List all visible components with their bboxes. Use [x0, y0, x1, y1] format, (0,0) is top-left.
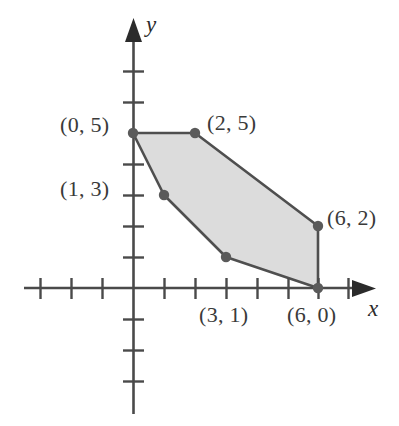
coordinate-plane-figure: (0, 5) (2, 5) (1, 3) (6, 2) (3, 1) (6, 0… [0, 0, 399, 426]
shaded-polygon-region [133, 133, 318, 288]
vertex-dot-0-5 [128, 128, 138, 138]
vertex-label-3-1: (3, 1) [199, 302, 248, 328]
vertex-dot-2-5 [190, 128, 200, 138]
vertex-label-6-2: (6, 2) [327, 205, 376, 231]
vertex-label-0-5: (0, 5) [60, 112, 109, 138]
vertex-label-1-3: (1, 3) [60, 176, 109, 202]
y-axis-arrowhead [125, 18, 142, 42]
vertex-dot-3-1 [221, 252, 231, 262]
vertex-label-2-5: (2, 5) [207, 110, 256, 136]
x-axis-label: x [368, 296, 378, 322]
x-axis-arrowhead [352, 280, 376, 297]
vertex-label-6-0: (6, 0) [287, 302, 336, 328]
vertex-dot-1-3 [159, 190, 169, 200]
vertex-dot-6-0 [313, 283, 323, 293]
y-axis-label: y [146, 12, 156, 38]
vertex-dot-6-2 [313, 221, 323, 231]
